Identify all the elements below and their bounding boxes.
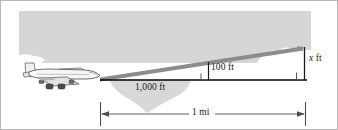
label-rise-100ft: 100 ft <box>211 63 234 73</box>
label-unknown-height: x ft <box>309 54 322 64</box>
dimension-arrowhead-right-icon <box>297 111 305 116</box>
diagram-canvas <box>1 1 338 130</box>
label-run-1000ft: 1,000 ft <box>135 83 165 93</box>
right-angle-mark-100ft-icon <box>201 74 208 80</box>
dimension-arrowhead-left-icon <box>101 111 109 116</box>
airplane-engine-2 <box>58 84 65 89</box>
airplane-engine-1 <box>46 84 53 89</box>
airplane-engine-3 <box>39 80 44 84</box>
airplane-icon <box>23 63 100 89</box>
airplane-wingtip-shade <box>39 78 55 81</box>
right-angle-mark-x-icon <box>297 73 304 80</box>
label-unknown-height-unit: ft <box>313 53 321 63</box>
airplane-engine-4 <box>69 80 74 84</box>
figure-container: 100 ft 1,000 ft x ft 1 mi <box>0 0 338 130</box>
label-total-distance-1mi: 1 mi <box>192 108 210 118</box>
